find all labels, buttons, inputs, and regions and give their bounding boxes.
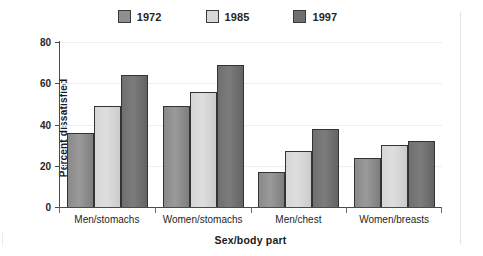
y-tick-label: 40 [40, 119, 51, 130]
legend-label: 1985 [225, 11, 250, 23]
category-ticks [59, 207, 442, 213]
category-label: Men/stomachs [59, 214, 155, 225]
category-labels: Men/stomachsWomen/stomachsMen/chestWomen… [59, 214, 442, 225]
category-tick-cell [59, 207, 155, 213]
bar [354, 158, 381, 208]
bar [217, 65, 244, 207]
bar [190, 92, 217, 208]
legend-label: 1972 [137, 11, 162, 23]
category-tick-mark [441, 207, 442, 213]
legend-swatch-icon [118, 10, 131, 23]
bar-chart: 197219851997 Percent dissatisfied 020406… [0, 0, 483, 256]
legend-label: 1997 [312, 11, 337, 23]
chart-legend: 197219851997 [0, 10, 455, 23]
bar [285, 151, 312, 207]
legend-item-1997: 1997 [293, 10, 337, 23]
bar [258, 172, 285, 207]
legend-swatch-icon [206, 10, 219, 23]
legend-item-1985: 1985 [206, 10, 250, 23]
bar [121, 75, 148, 207]
x-axis-title: Sex/body part [59, 234, 442, 246]
bar-group [60, 42, 156, 207]
category-tick-cell [346, 207, 442, 213]
legend-swatch-icon [293, 10, 306, 23]
page-edge-line-left [2, 232, 3, 246]
bar [408, 141, 435, 207]
y-tick-label: 0 [45, 202, 51, 213]
category-tick-mark [155, 207, 156, 213]
bar [163, 106, 190, 207]
category-label: Men/chest [251, 214, 347, 225]
category-axis: Men/stomachsWomen/stomachsMen/chestWomen… [59, 207, 442, 233]
y-tick-label: 80 [40, 37, 51, 48]
plot-area: 020406080 [60, 42, 442, 207]
bar [381, 145, 408, 207]
page-edge-line [460, 12, 461, 244]
bar [312, 129, 339, 207]
bar-group [347, 42, 443, 207]
category-tick-mark [59, 207, 60, 213]
bar [94, 106, 121, 207]
bar-group [156, 42, 252, 207]
bar-group [251, 42, 347, 207]
category-label: Women/breasts [346, 214, 442, 225]
category-tick-mark [251, 207, 252, 213]
category-label: Women/stomachs [155, 214, 251, 225]
legend-item-1972: 1972 [118, 10, 162, 23]
category-tick-cell [155, 207, 251, 213]
bar-groups [60, 42, 442, 207]
y-tick-label: 20 [40, 160, 51, 171]
y-tick-label: 60 [40, 78, 51, 89]
category-tick-mark [346, 207, 347, 213]
category-tick-cell [251, 207, 347, 213]
bar [67, 133, 94, 207]
